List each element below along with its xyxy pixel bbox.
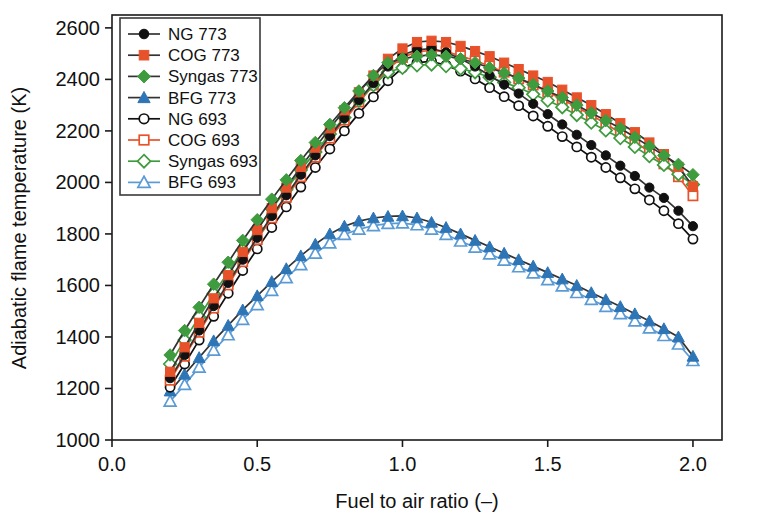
data-point (469, 234, 481, 245)
legend-label: Syngas 693 (168, 152, 258, 171)
data-point (340, 126, 349, 135)
data-point (688, 222, 697, 231)
data-point (558, 120, 567, 129)
x-tick-label: 1.5 (534, 453, 562, 475)
y-tick-label: 1800 (56, 223, 101, 245)
data-point (645, 195, 654, 204)
data-point (470, 46, 479, 55)
data-point (178, 324, 191, 337)
data-point (529, 111, 538, 120)
data-point (572, 130, 581, 139)
y-tick-label: 1400 (56, 326, 101, 348)
data-point (253, 225, 262, 234)
data-point (658, 323, 670, 334)
data-point (209, 294, 218, 303)
data-point (543, 110, 552, 119)
y-tick-label: 2400 (56, 68, 101, 90)
data-point (558, 132, 567, 141)
data-point (688, 182, 697, 191)
legend-label: NG 693 (168, 110, 227, 129)
data-point (500, 80, 509, 89)
legend-label: NG 773 (168, 25, 227, 44)
data-point (338, 220, 350, 231)
data-point (311, 163, 320, 172)
data-point (674, 206, 683, 215)
data-point (527, 260, 539, 271)
adiabatic-flame-temperature-chart: 1000120014001600180020002200240026000.00… (0, 0, 768, 524)
data-point (513, 254, 525, 265)
data-point (688, 234, 697, 243)
data-point (398, 44, 407, 53)
data-point (674, 219, 683, 228)
x-tick-label: 2.0 (679, 453, 707, 475)
y-tick-label: 1000 (56, 429, 101, 451)
y-axis-label: Adiabatic flame temperature (K) (8, 87, 30, 369)
data-point (354, 109, 363, 118)
data-point (514, 101, 523, 110)
data-point (601, 151, 610, 160)
data-point (659, 206, 668, 215)
y-tick-label: 2200 (56, 120, 101, 142)
data-point (543, 122, 552, 131)
data-point (643, 315, 655, 326)
data-point (630, 184, 639, 193)
data-point (325, 144, 334, 153)
y-tick-label: 2600 (56, 17, 101, 39)
x-tick-label: 0.5 (243, 453, 271, 475)
data-point (659, 193, 668, 202)
data-point (193, 301, 206, 314)
data-point (164, 349, 177, 362)
legend-label: BFG 773 (168, 89, 236, 108)
data-point (630, 171, 639, 180)
y-tick-label: 2000 (56, 171, 101, 193)
data-point (500, 92, 509, 101)
data-point (485, 52, 494, 61)
legend-label: Syngas 773 (168, 67, 258, 86)
y-tick-label: 1600 (56, 274, 101, 296)
data-point (195, 318, 204, 327)
data-point (556, 273, 568, 284)
data-point (616, 161, 625, 170)
y-tick-label: 1200 (56, 377, 101, 399)
data-point (571, 280, 583, 291)
data-point (224, 271, 233, 280)
data-point (688, 191, 697, 200)
data-point (498, 247, 510, 258)
data-point (542, 267, 554, 278)
data-point (309, 238, 321, 249)
data-point (427, 36, 436, 45)
data-point (180, 343, 189, 352)
data-point (456, 41, 465, 50)
data-point (572, 142, 581, 151)
data-point (139, 29, 149, 39)
data-point (484, 241, 496, 252)
chart-figure: 1000120014001600180020002200240026000.00… (0, 0, 768, 524)
data-point (324, 228, 336, 239)
data-point (139, 50, 149, 60)
data-point (412, 37, 421, 46)
data-point (587, 140, 596, 149)
data-point (282, 202, 291, 211)
data-point (600, 294, 612, 305)
legend-label: BFG 693 (168, 173, 236, 192)
data-point (238, 247, 247, 256)
legend-label: COG 773 (168, 46, 240, 65)
x-tick-label: 0.0 (98, 453, 126, 475)
data-point (440, 222, 452, 233)
data-point (629, 308, 641, 319)
data-point (587, 153, 596, 162)
data-point (455, 228, 467, 239)
data-point (369, 92, 378, 101)
data-point (585, 287, 597, 298)
legend-label: COG 693 (168, 131, 240, 150)
data-point (500, 58, 509, 67)
data-point (673, 331, 685, 342)
data-point (441, 37, 450, 46)
data-point (601, 163, 610, 172)
data-point (529, 99, 538, 108)
data-point (296, 182, 305, 191)
chart-legend: NG 773COG 773Syngas 773BFG 773NG 693COG … (120, 18, 260, 195)
data-point (614, 301, 626, 312)
data-point (139, 114, 149, 124)
data-point (514, 89, 523, 98)
